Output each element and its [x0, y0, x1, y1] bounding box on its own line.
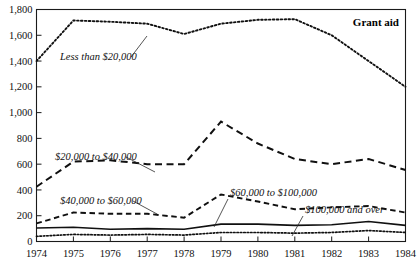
series-annotation-label: $100,000 and over [305, 204, 385, 215]
x-tick-label: 1982 [321, 248, 342, 259]
y-tick-label: 200 [17, 210, 33, 221]
x-tick-label: 1984 [395, 248, 417, 259]
x-axis-labels: 1974197519761977197819791980198119821983… [26, 248, 417, 259]
x-tick-label: 1976 [100, 248, 121, 259]
series-annotation-label: $40,000 to $60,000 [60, 195, 142, 206]
x-tick-label: 1977 [137, 248, 158, 259]
series-annotation-label: $60,000 to $100,000 [230, 187, 318, 198]
y-tick-label: 0 [27, 236, 32, 247]
x-tick-label: 1975 [63, 248, 84, 259]
x-tick-label: 1983 [358, 248, 379, 259]
x-tick-label: 1978 [174, 248, 195, 259]
chart-title: Grant aid [353, 16, 399, 28]
y-axis-labels: 02004006008001,0001,2001,4001,6001,800 [9, 4, 33, 247]
y-tick-label: 600 [17, 159, 33, 170]
y-tick-label: 1,600 [9, 30, 33, 41]
y-tick-label: 1,400 [9, 56, 33, 67]
chart-screenshot: 02004006008001,0001,2001,4001,6001,800 1… [0, 0, 419, 265]
series-annotation-label: $20,000 to $40,000 [55, 151, 137, 162]
series-annotation-label: Less than $20,000 [59, 51, 137, 62]
x-tick-label: 1980 [247, 248, 268, 259]
x-tick-label: 1974 [26, 248, 48, 259]
y-tick-label: 800 [17, 133, 33, 144]
y-tick-label: 1,000 [9, 107, 33, 118]
x-tick-label: 1981 [284, 248, 305, 259]
x-tick-label: 1979 [211, 248, 232, 259]
y-tick-label: 1,800 [9, 4, 33, 15]
y-tick-label: 1,200 [9, 81, 33, 92]
y-tick-label: 400 [17, 185, 33, 196]
grant-aid-line-chart: 02004006008001,0001,2001,4001,6001,800 1… [0, 0, 419, 265]
